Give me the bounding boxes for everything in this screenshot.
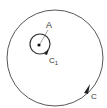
inner-curve-arrow-icon xyxy=(44,49,49,55)
outer-curve-c xyxy=(7,10,103,106)
label-c1: C1 xyxy=(49,56,59,66)
label-c1-sub: 1 xyxy=(55,60,59,66)
label-c: C xyxy=(91,92,97,101)
diagram-canvas: A C1 C xyxy=(0,0,107,108)
contour-diagram: A C1 C xyxy=(0,0,107,108)
outer-curve-arrow-icon xyxy=(84,84,90,94)
label-a: A xyxy=(46,20,52,30)
